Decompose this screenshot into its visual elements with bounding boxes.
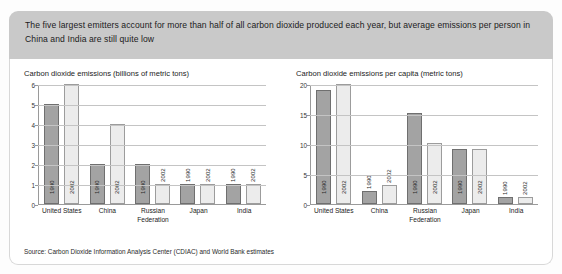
bar-year-label: 2002 xyxy=(160,168,166,182)
y-axis-tick-label: 6 xyxy=(31,82,35,89)
y-axis-tick-label: 2 xyxy=(31,162,35,169)
gridline xyxy=(310,85,538,86)
bar: 1990 xyxy=(316,90,331,204)
bar-year-label: 2002 xyxy=(477,180,483,194)
x-axis xyxy=(38,204,266,205)
bar: 2002 xyxy=(427,143,442,204)
y-axis-tick-mark xyxy=(35,125,38,126)
y-axis-tick-label: 5 xyxy=(303,172,307,179)
plot-area: 1990200219902002199020021990200219902002… xyxy=(310,85,538,205)
y-axis-tick-label: 0 xyxy=(31,202,35,209)
figure-body-panel: Carbon dioxide emissions (billions of me… xyxy=(9,59,553,265)
category-labels: United StatesChinaRussian FederationJapa… xyxy=(39,207,267,224)
chart-emissions-total: Carbon dioxide emissions (billions of me… xyxy=(10,59,282,237)
gridline xyxy=(38,185,266,186)
bar-year-label: 2002 xyxy=(522,182,528,196)
category-label: India xyxy=(493,207,539,224)
y-axis-tick-mark xyxy=(307,145,310,146)
bar: 2002 xyxy=(472,149,487,204)
y-axis-tick-label: 1 xyxy=(31,182,35,189)
source-note: Source: Carbon Dioxide Information Analy… xyxy=(24,248,274,255)
bar-year-label: 1990 xyxy=(321,180,327,194)
figure-headline-text: The five largest emitters account for mo… xyxy=(25,19,537,46)
category-labels: United StatesChinaRussian FederationJapa… xyxy=(311,207,539,224)
bar: 2002 xyxy=(200,184,215,204)
chart-emissions-per-capita: Carbon dioxide emissions per capita (met… xyxy=(282,59,554,237)
bar-year-label: 1990 xyxy=(412,180,418,194)
chart-title: Carbon dioxide emissions (billions of me… xyxy=(24,69,189,78)
bar-year-label: 2002 xyxy=(69,180,75,194)
charts-container: Carbon dioxide emissions (billions of me… xyxy=(10,59,554,237)
y-axis-tick-label: 4 xyxy=(31,122,35,129)
gridline xyxy=(38,105,266,106)
y-axis-tick-label: 15 xyxy=(300,112,307,119)
y-axis-tick-label: 5 xyxy=(31,102,35,109)
x-axis xyxy=(310,204,538,205)
category-label: Russian Federation xyxy=(402,207,448,224)
bar: 1990 xyxy=(362,191,377,204)
y-axis-tick-mark xyxy=(307,205,310,206)
bar: 2002 xyxy=(336,84,351,204)
gridline xyxy=(310,115,538,116)
y-axis-tick-mark xyxy=(307,85,310,86)
y-axis-tick-mark xyxy=(307,115,310,116)
y-axis-tick-mark xyxy=(35,165,38,166)
category-label: United States xyxy=(311,207,357,224)
y-axis-tick-label: 3 xyxy=(31,142,35,149)
category-label: Japan xyxy=(176,207,222,224)
bar: 1990 xyxy=(180,184,195,204)
bar-year-label: 2002 xyxy=(114,180,120,194)
y-axis-tick-mark xyxy=(35,105,38,106)
bar: 1990 xyxy=(452,149,467,204)
category-label: China xyxy=(85,207,131,224)
bar: 2002 xyxy=(110,124,125,204)
bar-year-label: 1990 xyxy=(230,168,236,182)
category-label: United States xyxy=(39,207,85,224)
bar-year-label: 2002 xyxy=(250,168,256,182)
bar-year-label: 1990 xyxy=(140,180,146,194)
bar-year-label: 1990 xyxy=(366,176,372,190)
bar-year-label: 2002 xyxy=(205,168,211,182)
bar: 2002 xyxy=(382,185,397,204)
y-axis-tick-label: 10 xyxy=(300,142,307,149)
bar: 2002 xyxy=(518,197,533,204)
bar-year-label: 1990 xyxy=(457,180,463,194)
bar-year-label: 1990 xyxy=(502,182,508,196)
bar: 1990 xyxy=(90,164,105,204)
gridline xyxy=(38,125,266,126)
category-label: Russian Federation xyxy=(130,207,176,224)
y-axis-tick-mark xyxy=(35,145,38,146)
bar-year-label: 2002 xyxy=(432,180,438,194)
figure-panel: The five largest emitters account for mo… xyxy=(0,0,562,274)
figure-headline-banner: The five largest emitters account for mo… xyxy=(9,11,553,59)
y-axis-tick-label: 0 xyxy=(303,202,307,209)
y-axis-tick-mark xyxy=(35,85,38,86)
category-label: India xyxy=(221,207,267,224)
gridline xyxy=(38,145,266,146)
bar: 2002 xyxy=(64,84,79,204)
category-label: China xyxy=(357,207,403,224)
bar: 2002 xyxy=(155,184,170,204)
gridline xyxy=(310,145,538,146)
gridline xyxy=(38,85,266,86)
bar-year-label: 1990 xyxy=(185,168,191,182)
bar: 1990 xyxy=(498,197,513,204)
bar: 1990 xyxy=(226,184,241,204)
plot-area: 1990200219902002199020021990200219902002… xyxy=(38,85,266,205)
gridline xyxy=(310,175,538,176)
bar: 1990 xyxy=(407,113,422,204)
y-axis-tick-mark xyxy=(307,175,310,176)
y-axis-tick-label: 20 xyxy=(300,82,307,89)
bar-year-label: 1990 xyxy=(49,180,55,194)
chart-title: Carbon dioxide emissions per capita (met… xyxy=(296,69,463,78)
y-axis-tick-mark xyxy=(35,185,38,186)
bar: 2002 xyxy=(246,184,261,204)
y-axis-tick-mark xyxy=(35,205,38,206)
category-label: Japan xyxy=(448,207,494,224)
bar-year-label: 2002 xyxy=(341,180,347,194)
bar-year-label: 1990 xyxy=(94,180,100,194)
bar: 1990 xyxy=(44,104,59,204)
gridline xyxy=(38,165,266,166)
bar: 1990 xyxy=(135,164,150,204)
